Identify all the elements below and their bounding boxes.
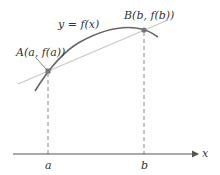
secant-diagram: y = f(x) A(a, f(a)) B(b, f(b)) x a b [0,0,220,175]
point-a [46,69,51,74]
point-b-label: B(b, f(b)) [123,9,174,22]
tick-a-label: a [45,159,52,172]
point-a-leader [36,58,47,70]
point-a-label: A(a, f(a)) [15,46,65,59]
x-axis-label: x [202,147,209,160]
curve-f [35,28,158,91]
curve-label: y = f(x) [57,18,99,31]
tick-b-label: b [141,159,148,172]
point-b [141,27,146,32]
